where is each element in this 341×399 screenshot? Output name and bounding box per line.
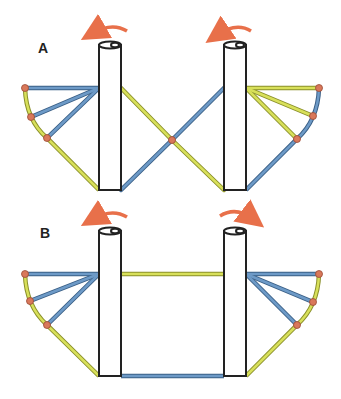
panel-b bbox=[22, 212, 323, 376]
panel-a bbox=[22, 27, 323, 190]
right-fan-bars bbox=[246, 274, 319, 325]
rotate-ccw-arrow-icon bbox=[93, 27, 127, 33]
joint-nodes-b bbox=[22, 271, 323, 329]
joint-nodes-a bbox=[22, 85, 323, 144]
right-fan-bars bbox=[246, 88, 319, 139]
pillar-a-right bbox=[224, 42, 246, 191]
left-fan-bars-outline bbox=[25, 88, 99, 138]
rotate-cw-arrow-icon bbox=[220, 212, 253, 219]
linkage-diagram bbox=[0, 0, 341, 399]
rotate-ccw-arrow-icon bbox=[217, 27, 251, 35]
left-fan-bars bbox=[25, 274, 99, 325]
rotate-ccw-arrow-icon bbox=[93, 213, 127, 219]
pillar-b-left bbox=[99, 228, 121, 377]
pillar-b-right bbox=[224, 228, 246, 377]
pillar-a-left bbox=[99, 42, 121, 191]
